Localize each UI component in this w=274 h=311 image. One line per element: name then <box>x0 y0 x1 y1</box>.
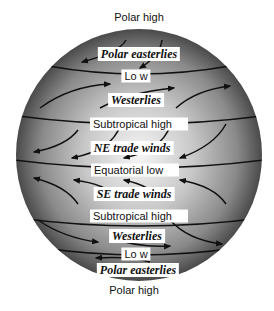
low-north-label: Lo w <box>121 70 150 83</box>
polar-easterlies-south-label: Polar easterlies <box>97 263 179 277</box>
subtropical-high-south-label: Subtropical high <box>90 210 188 223</box>
polar-high-north-label: Polar high <box>114 12 164 23</box>
polar-easterlies-north-label: Polar easterlies <box>98 47 180 61</box>
subtropical-high-north-label: Subtropical high <box>90 118 188 131</box>
se-trade-winds-label: SE trade winds <box>94 187 175 201</box>
polar-high-south-label: Polar high <box>109 285 159 296</box>
equatorial-low-label: Equatorial low <box>91 164 179 177</box>
westerlies-south-label: Westerlies <box>109 229 165 243</box>
ne-trade-winds-label: NE trade winds <box>91 141 174 155</box>
westerlies-north-label: Westerlies <box>108 93 164 107</box>
low-south-label: Lo w <box>121 248 150 261</box>
